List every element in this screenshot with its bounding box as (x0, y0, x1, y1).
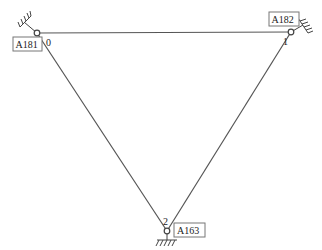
diagram-canvas: 0 1 2 A181 A182 A163 (0, 0, 322, 250)
node-1[interactable] (288, 29, 294, 35)
node-0[interactable] (34, 30, 40, 36)
node-index-label-2: 2 (163, 216, 168, 227)
tag-box-node-1: A182 (269, 12, 299, 26)
edge-0-1[interactable] (37, 32, 291, 33)
node-index-label-1: 1 (283, 36, 288, 47)
node-index-label-0: 0 (46, 37, 51, 48)
tag-label-a182: A182 (272, 14, 294, 25)
edge-2-0[interactable] (37, 33, 167, 231)
tag-box-node-2: A163 (174, 223, 205, 237)
nodes (34, 29, 294, 234)
node-2[interactable] (164, 228, 170, 234)
truss-diagram: 0 1 2 A181 A182 A163 (0, 0, 322, 250)
edge-1-2[interactable] (167, 32, 291, 231)
edges (37, 32, 291, 231)
fixed-support-icon-node-0 (18, 11, 37, 33)
tag-box-node-0: A181 (13, 37, 42, 51)
tag-label-a163: A163 (177, 225, 199, 236)
tag-label-a181: A181 (16, 39, 38, 50)
